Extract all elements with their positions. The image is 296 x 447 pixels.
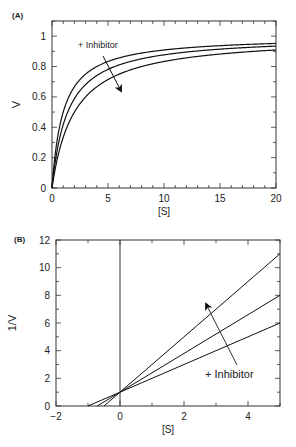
y-tick-label: 10 (39, 262, 51, 273)
x-tick-label: 0 (49, 193, 55, 204)
y-tick-label: 0 (44, 401, 50, 412)
y-tick-label: 0.8 (32, 61, 46, 72)
y-tick-label: 4 (44, 345, 50, 356)
y-axis-label: V (10, 100, 22, 108)
curve (52, 46, 276, 188)
y-tick-label: 12 (39, 235, 51, 246)
y-tick-label: 0 (40, 183, 46, 194)
x-axis-label: [S] (158, 206, 170, 217)
panel-label: (B) (14, 235, 25, 244)
y-tick-label: 0.2 (32, 152, 46, 163)
inhibitor-annotation: + Inhibitor (205, 368, 254, 380)
x-tick-label: 2 (181, 411, 187, 422)
plot-frame (56, 240, 280, 406)
x-tick-label: 5 (105, 193, 111, 204)
y-tick-label: 0.6 (32, 91, 46, 102)
x-tick-label: 0 (117, 411, 123, 422)
arrow-icon (206, 304, 237, 365)
y-tick-label: 8 (44, 290, 50, 301)
x-axis-label: [S] (162, 424, 174, 435)
line-series (104, 254, 280, 406)
y-axis-label: 1/V (6, 314, 18, 331)
x-tick-label: 4 (245, 411, 251, 422)
curve (52, 50, 276, 188)
x-tick-label: 15 (214, 193, 226, 204)
x-tick-label: 20 (270, 193, 282, 204)
x-tick-label: 10 (158, 193, 170, 204)
y-tick-label: 6 (44, 318, 50, 329)
y-tick-label: 0.4 (32, 122, 46, 133)
inhibitor-annotation: + Inhibitor (78, 40, 118, 50)
y-tick-label: 1 (40, 31, 46, 42)
line-series (97, 295, 280, 406)
chart-figure: 0510152000.20.40.60.81[S]V(A)+ Inhibitor… (0, 0, 296, 447)
y-tick-label: 2 (44, 373, 50, 384)
panel-label: (A) (12, 11, 23, 20)
arrow-icon (103, 56, 121, 91)
curve (52, 43, 276, 188)
x-tick-label: −2 (50, 411, 62, 422)
